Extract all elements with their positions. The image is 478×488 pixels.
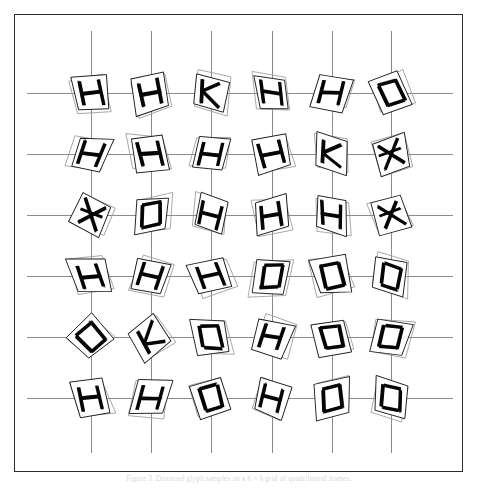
- glyph-cell: [308, 254, 356, 298]
- glyph-cell: [310, 320, 355, 358]
- glyph-cell: [316, 194, 352, 239]
- glyph-cell: [68, 191, 115, 240]
- glyph-frame: [65, 313, 116, 361]
- glyph-frame: [372, 253, 408, 297]
- glyph-cell: [68, 74, 114, 115]
- glyph-cell: [64, 134, 114, 173]
- glyph-cell: [126, 132, 172, 174]
- glyph-cell: [251, 376, 292, 421]
- glyph-cell: [65, 255, 116, 294]
- glyph-layer: [15, 15, 462, 471]
- glyph-cell: [135, 192, 173, 234]
- glyph-cell: [64, 312, 115, 361]
- glyph-stroke: [386, 325, 403, 327]
- plot-frame: [14, 14, 463, 472]
- glyph-stroke: [81, 276, 101, 278]
- glyph-cell: [69, 378, 116, 418]
- glyph-cell: [250, 71, 291, 113]
- glyph-cell: [251, 193, 293, 238]
- glyph-cell: [129, 69, 173, 119]
- glyph-cell: [372, 251, 413, 299]
- glyph-cell: [366, 69, 418, 115]
- glyph-stroke: [142, 205, 143, 227]
- figure-caption: Figure 3. Distorted glyph samples on a 6…: [0, 474, 478, 484]
- glyph-frame: [135, 195, 169, 235]
- glyph-cell: [186, 256, 239, 299]
- glyph-stroke: [381, 384, 383, 406]
- glyph-stroke: [139, 153, 160, 154]
- glyph-cell: [189, 190, 230, 237]
- glyph-cell: [248, 132, 295, 175]
- glyph-stroke: [80, 396, 100, 398]
- glyph-cell: [127, 311, 176, 367]
- glyph-cell: [247, 259, 294, 297]
- glyph-cell: [309, 74, 356, 113]
- glyph-cell: [366, 318, 416, 358]
- glyph-stroke: [259, 287, 278, 288]
- glyph-cell: [126, 379, 174, 418]
- glyph-stroke: [81, 92, 101, 94]
- glyph-stroke: [201, 154, 220, 156]
- glyph-cell: [366, 194, 414, 236]
- glyph-cell: [371, 375, 408, 423]
- glyph-cell: [314, 131, 348, 176]
- glyph-cell: [188, 377, 232, 420]
- glyph-frame: [248, 317, 295, 360]
- glyph-cell: [193, 67, 230, 116]
- glyph-frame: [127, 313, 171, 364]
- glyph-stroke: [379, 346, 398, 348]
- figure-container: Figure 3. Distorted glyph samples on a 6…: [0, 0, 478, 488]
- glyph-frame: [374, 375, 408, 419]
- glyph-stroke: [322, 91, 342, 94]
- glyph-cell: [313, 375, 352, 421]
- glyph-cell: [127, 254, 176, 298]
- glyph-stroke: [322, 390, 325, 412]
- glyph-stroke: [204, 348, 222, 349]
- glyph-cell: [190, 319, 235, 355]
- glyph-stroke: [160, 202, 161, 224]
- glyph-stroke: [399, 390, 401, 412]
- glyph-stroke: [327, 346, 343, 348]
- glyph-cell: [248, 312, 300, 360]
- glyph-cell: [371, 130, 413, 178]
- glyph-cell: [189, 134, 233, 170]
- glyph-stroke: [82, 153, 99, 156]
